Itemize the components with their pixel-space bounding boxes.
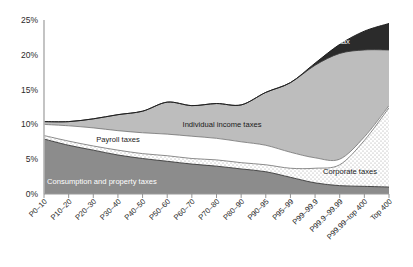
stacked-area-chart: 25%20%15%10%5%0% P0–10P10–20P20–30P30–40… <box>0 0 413 267</box>
y-tick-labels: 25%20%15%10%5%0% <box>21 15 38 199</box>
x-tick-label: P80–90 <box>221 197 246 222</box>
x-tick-label: P40–50 <box>123 197 148 222</box>
x-axis: P0–10P10–20P20–30P30–40P40–50P50–60P60–7… <box>27 194 394 241</box>
y-tick-label: 5% <box>26 154 39 164</box>
y-tick-label: 0% <box>26 189 39 199</box>
label-individual-income-taxes: Individual income taxes <box>183 120 262 129</box>
x-tick-label: P10–20 <box>49 197 74 222</box>
x-tick-labels: P0–10P10–20P20–30P30–40P40–50P50–60P60–7… <box>27 197 394 241</box>
x-tick-label: P30–40 <box>98 197 123 222</box>
y-tick-label: 10% <box>21 119 38 129</box>
x-tick-label: P20–30 <box>73 197 98 222</box>
label-estate-tax: Estate tax <box>316 37 350 46</box>
chart-container: 25%20%15%10%5%0% P0–10P10–20P20–30P30–40… <box>0 0 413 267</box>
x-tick-label: P0–10 <box>27 197 49 219</box>
label-consumption-and-property-taxes: Consumption and property taxes <box>47 177 157 186</box>
x-tick-label: P70–80 <box>197 197 222 222</box>
y-axis: 25%20%15%10%5%0% <box>21 15 44 199</box>
x-tick-label: P90–95 <box>246 197 271 222</box>
y-tick-label: 20% <box>21 50 38 60</box>
x-tick-label: P50–60 <box>147 197 172 222</box>
x-tick-label: P60–70 <box>172 197 197 222</box>
y-tick-label: 25% <box>21 15 38 25</box>
label-payroll-taxes: Payroll taxes <box>96 135 140 144</box>
y-tick-label: 15% <box>21 85 38 95</box>
x-tick-label: Top 400 <box>368 197 393 222</box>
label-corporate-taxes: Corporate taxes <box>323 167 377 176</box>
